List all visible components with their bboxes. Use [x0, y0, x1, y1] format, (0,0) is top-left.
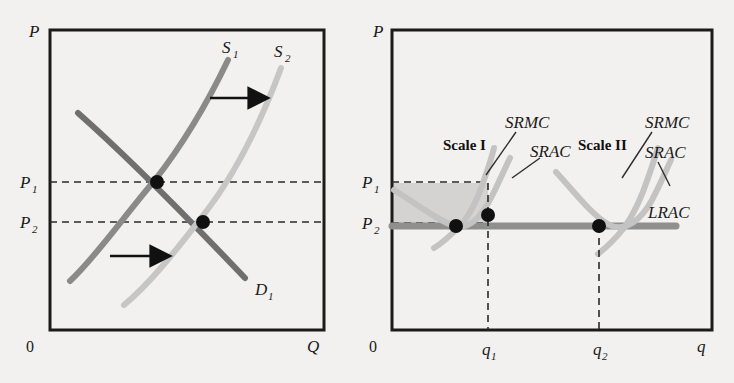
- demand-curve-d1-label-sub: 1: [268, 290, 274, 302]
- right-panel: P q 0 P 1 P 2 q 1 q 2 Scale I Scale II S…: [361, 22, 712, 362]
- supply-curve-s1-label-sub: 1: [233, 48, 239, 60]
- right-quantity-tick-q2-sub: 2: [602, 350, 608, 362]
- srmc-label-scale-one: SRMC: [505, 113, 550, 132]
- scale-two-point: [592, 219, 606, 233]
- scale-one-label: Scale I: [443, 137, 486, 153]
- left-price-tick-p2: P: [19, 213, 30, 232]
- right-price-tick-p2: P: [361, 214, 372, 233]
- right-origin-label: 0: [369, 338, 377, 355]
- right-x-axis-label: q: [697, 337, 706, 356]
- left-panel-frame: [50, 30, 324, 330]
- srac-label-scale-one: SRAC: [530, 142, 571, 161]
- right-quantity-tick-q2: q: [593, 340, 602, 359]
- left-price-tick-p2-sub: 2: [32, 223, 38, 235]
- right-quantity-tick-q1: q: [482, 340, 491, 359]
- equilibrium-point-1: [150, 175, 164, 189]
- left-x-axis-label: Q: [307, 337, 319, 356]
- left-price-tick-p1: P: [19, 173, 30, 192]
- equilibrium-point-2: [196, 215, 210, 229]
- left-panel: P Q 0 P 1 P 2 S 1 S 2 D 1: [19, 22, 324, 356]
- supply-curve-s2-label-sub: 2: [285, 52, 291, 64]
- scale-one-min-point: [449, 219, 463, 233]
- demand-curve-d1-label: D: [254, 280, 268, 299]
- right-quantity-tick-q1-sub: 1: [491, 350, 497, 362]
- left-price-tick-p1-sub: 1: [32, 183, 38, 195]
- supply-curve-s2-label: S: [274, 42, 283, 61]
- left-y-axis-label: P: [28, 22, 39, 41]
- right-y-axis-label: P: [372, 22, 383, 41]
- scale-two-label: Scale II: [578, 137, 627, 153]
- left-origin-label: 0: [26, 338, 34, 355]
- scale-one-output-point: [481, 208, 495, 222]
- supply-curve-s1: [70, 60, 228, 281]
- srac-label-scale-two: SRAC: [645, 143, 686, 162]
- supply-curve-s1-label: S: [222, 38, 231, 57]
- srac-leader-scale-one: [512, 158, 540, 178]
- economics-figure: P Q 0 P 1 P 2 S 1 S 2 D 1: [0, 0, 734, 383]
- lrac-label: LRAC: [647, 203, 690, 222]
- srmc-label-scale-two: SRMC: [645, 113, 690, 132]
- right-price-tick-p1: P: [361, 173, 372, 192]
- right-price-tick-p2-sub: 2: [374, 224, 380, 236]
- figure-canvas: P Q 0 P 1 P 2 S 1 S 2 D 1: [0, 0, 734, 383]
- right-price-tick-p1-sub: 1: [374, 183, 380, 195]
